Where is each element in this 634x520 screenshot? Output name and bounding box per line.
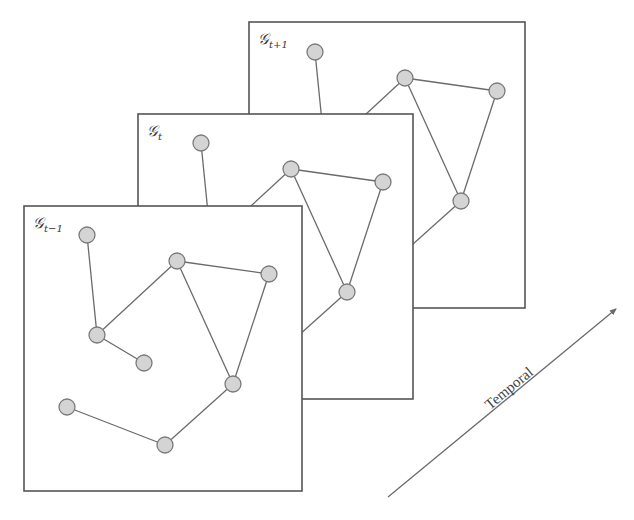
node-b [397, 70, 413, 86]
node-d [89, 327, 105, 343]
node-b [169, 253, 185, 269]
node-b [283, 161, 299, 177]
temporal-axis: Temporal [388, 309, 616, 497]
node-f [453, 193, 469, 209]
temporal-label: Temporal [482, 364, 536, 413]
node-a [79, 227, 95, 243]
node-c [261, 266, 277, 282]
frame-label-subscript: t−1 [44, 223, 63, 234]
temporal-graph-diagram: 𝒢t+1𝒢t𝒢t−1 Temporal [0, 0, 634, 520]
node-c [375, 174, 391, 190]
node-h [157, 437, 173, 453]
node-f [339, 284, 355, 300]
node-c [489, 83, 505, 99]
node-g [59, 399, 75, 415]
node-a [307, 44, 323, 60]
node-e [136, 355, 152, 371]
frame-label-subscript: t+1 [269, 39, 288, 50]
graph-frame-front: 𝒢t−1 [24, 206, 302, 491]
node-a [193, 135, 209, 151]
node-f [225, 376, 241, 392]
